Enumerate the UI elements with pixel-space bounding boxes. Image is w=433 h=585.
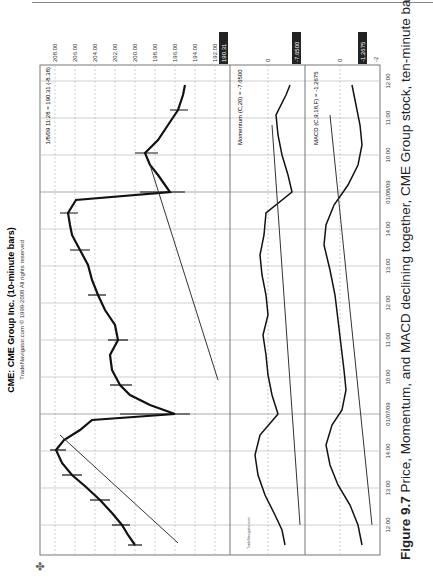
svg-text:12:00: 12:00	[385, 295, 391, 311]
svg-text:194.00: 194.00	[192, 43, 198, 62]
figure-label: Figure 9.7	[398, 496, 413, 560]
svg-text:204.00: 204.00	[92, 43, 98, 62]
svg-text:-2: -2	[373, 56, 379, 62]
watermark: TradeNavigator.com	[247, 518, 251, 549]
chart-title: CME: CME Group Inc. (10-minute bars)	[6, 227, 16, 393]
svg-text:14:00: 14:00	[385, 443, 391, 459]
svg-text:10:00: 10:00	[385, 147, 391, 163]
price-axis-labels: 208.00 206.00 204.00 202.00 200.00 198.0…	[52, 43, 218, 62]
figure-caption-text: Price, Momentum, and MACD declining toge…	[398, 0, 413, 492]
svg-text:13:00: 13:00	[385, 480, 391, 496]
time-axis-labels: 12:00 13:00 14:00 01/07/09 10:00 11:00 1…	[385, 73, 391, 533]
svg-text:196.00: 196.00	[172, 43, 178, 62]
page-top-rule	[32, 2, 433, 3]
last-price-info: 1/8/09 11:28 = 190.31 (-8.38)	[45, 67, 51, 144]
svg-text:192.00: 192.00	[212, 43, 218, 62]
svg-text:12:00: 12:00	[385, 73, 391, 89]
svg-text:206.00: 206.00	[72, 43, 78, 62]
momentum-label: Momentum (C,20) = -7.6500	[237, 69, 243, 145]
chart-svg: CME: CME Group Inc. (10-minute bars) Tra…	[0, 25, 400, 585]
svg-text:10:00: 10:00	[385, 369, 391, 385]
svg-text:200.00: 200.00	[132, 43, 138, 62]
svg-text:190.31: 190.31	[221, 43, 227, 62]
svg-text:0: 0	[337, 58, 343, 62]
svg-text:01/07/09: 01/07/09	[385, 402, 391, 426]
svg-text:01/08/09: 01/08/09	[385, 180, 391, 204]
svg-text:11:00: 11:00	[385, 332, 391, 347]
svg-text:202.00: 202.00	[112, 43, 118, 62]
chart-copyright: TradeNavigator.com © 1999-2008 All right…	[19, 240, 25, 380]
trade-navigator-logo-icon: ✤	[34, 562, 46, 571]
rotated-figure: CME: CME Group Inc. (10-minute bars) Tra…	[0, 25, 433, 585]
macd-label: MACD (C,9,18,F) = -1.2675	[313, 71, 319, 145]
svg-text:0: 0	[265, 58, 271, 62]
svg-text:13:00: 13:00	[385, 258, 391, 274]
svg-text:-1.2675: -1.2675	[360, 41, 366, 62]
svg-text:11:00: 11:00	[385, 110, 391, 125]
svg-text:14:00: 14:00	[385, 221, 391, 237]
figure-caption: Figure 9.7 Price, Momentum, and MACD dec…	[398, 20, 413, 560]
chart-border	[40, 65, 380, 555]
svg-text:208.00: 208.00	[52, 43, 58, 62]
svg-text:198.00: 198.00	[152, 43, 158, 62]
svg-text:12:00: 12:00	[385, 517, 391, 533]
svg-text:-7.6500: -7.6500	[294, 41, 300, 62]
